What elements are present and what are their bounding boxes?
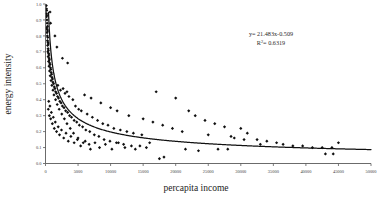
data-point bbox=[86, 112, 89, 115]
y-axis-title: energy intensity bbox=[3, 53, 13, 114]
data-point bbox=[117, 141, 120, 144]
data-point bbox=[60, 112, 63, 115]
data-point bbox=[48, 114, 51, 117]
x-tick-label: 35000 bbox=[268, 169, 280, 174]
data-point bbox=[97, 135, 100, 138]
data-point bbox=[96, 119, 99, 122]
data-point bbox=[174, 97, 177, 100]
data-point bbox=[259, 143, 262, 146]
data-point bbox=[93, 133, 96, 136]
data-point bbox=[83, 93, 86, 96]
data-point bbox=[130, 144, 133, 147]
y-tick-label: 0.1 bbox=[36, 145, 42, 150]
data-point bbox=[171, 127, 174, 130]
data-point bbox=[127, 114, 130, 117]
r-squared-value: = 0.6319 bbox=[263, 39, 285, 46]
x-axis-title: percapita income bbox=[163, 183, 228, 193]
data-point bbox=[65, 122, 68, 125]
data-point bbox=[99, 101, 102, 104]
data-point bbox=[58, 133, 61, 136]
y-tick-label: 0.5 bbox=[36, 81, 42, 86]
data-point bbox=[197, 149, 200, 152]
data-point bbox=[47, 108, 50, 111]
data-point bbox=[255, 138, 258, 141]
data-point bbox=[71, 98, 74, 101]
data-point bbox=[55, 130, 58, 133]
data-point bbox=[119, 128, 122, 131]
data-point bbox=[60, 128, 63, 131]
data-point bbox=[239, 127, 242, 130]
data-point bbox=[54, 98, 57, 101]
y-tick-label: 0.8 bbox=[36, 34, 42, 39]
data-point bbox=[55, 45, 58, 48]
data-point bbox=[56, 103, 59, 106]
x-tick-label: 25000 bbox=[203, 169, 215, 174]
data-point bbox=[50, 111, 53, 114]
data-point bbox=[187, 109, 190, 112]
data-point bbox=[47, 100, 50, 103]
data-point bbox=[181, 130, 184, 133]
data-point bbox=[66, 61, 69, 64]
data-point bbox=[102, 138, 105, 141]
data-point bbox=[116, 109, 119, 112]
trendline-annotation: y= 21.483x-0.509 R2= 0.6319 bbox=[249, 30, 293, 46]
data-point bbox=[84, 128, 87, 131]
x-tick-label: 40000 bbox=[300, 169, 312, 174]
data-point bbox=[79, 144, 82, 147]
data-point bbox=[337, 141, 340, 144]
data-point bbox=[158, 157, 161, 160]
data-point bbox=[64, 132, 67, 135]
data-point bbox=[62, 136, 65, 139]
data-point bbox=[78, 124, 81, 127]
y-tick-label: 0.2 bbox=[36, 129, 42, 134]
data-point bbox=[104, 143, 107, 146]
x-tick-label: 0 bbox=[44, 169, 47, 174]
data-point bbox=[275, 141, 278, 144]
x-tick-label: 20000 bbox=[170, 169, 182, 174]
data-point bbox=[282, 143, 285, 146]
data-point bbox=[48, 104, 51, 107]
data-point bbox=[67, 95, 70, 98]
data-point bbox=[332, 152, 335, 155]
data-point bbox=[53, 127, 56, 130]
x-axis-ticks: 0500010000150002000025000300003500040000… bbox=[44, 164, 377, 174]
data-point bbox=[213, 122, 216, 125]
data-point bbox=[151, 120, 154, 123]
data-point bbox=[75, 120, 78, 123]
data-point bbox=[57, 125, 60, 128]
scatter-chart: 0.00.10.20.30.40.50.60.70.80.91.0 050001… bbox=[0, 0, 382, 201]
data-point bbox=[161, 124, 164, 127]
data-point bbox=[88, 130, 91, 133]
trendline-equation: y= 21.483x-0.509 bbox=[249, 30, 293, 37]
data-point bbox=[61, 57, 64, 60]
data-point bbox=[233, 136, 236, 139]
y-tick-label: 0.7 bbox=[36, 49, 42, 54]
data-point bbox=[74, 104, 77, 107]
data-point bbox=[59, 89, 62, 92]
y-axis-ticks: 0.00.10.20.30.40.50.60.70.80.91.0 bbox=[36, 2, 46, 167]
power-trendline bbox=[49, 12, 372, 149]
data-point bbox=[207, 133, 210, 136]
data-point bbox=[142, 117, 145, 120]
data-point bbox=[145, 146, 148, 149]
data-point bbox=[77, 108, 80, 111]
data-point bbox=[91, 116, 94, 119]
data-point bbox=[132, 132, 135, 135]
data-point bbox=[301, 144, 304, 147]
data-point bbox=[89, 148, 92, 151]
data-point bbox=[216, 148, 219, 151]
data-point bbox=[80, 109, 83, 112]
data-point bbox=[81, 125, 84, 128]
data-point bbox=[203, 119, 206, 122]
r-squared-annotation: R2= 0.6319 bbox=[257, 39, 285, 46]
data-point bbox=[108, 140, 111, 143]
data-point bbox=[184, 148, 187, 151]
x-tick-label: 15000 bbox=[138, 169, 150, 174]
data-point bbox=[229, 135, 232, 138]
y-tick-label: 0.9 bbox=[36, 18, 42, 23]
data-point bbox=[58, 108, 61, 111]
data-point bbox=[49, 117, 52, 120]
data-point bbox=[324, 152, 327, 155]
data-point bbox=[223, 125, 226, 128]
y-tick-label: 0.6 bbox=[36, 65, 42, 70]
